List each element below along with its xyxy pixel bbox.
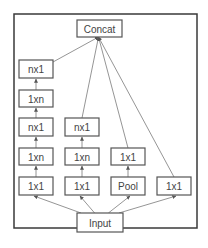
edges	[34, 37, 176, 213]
node-c4-1x1: 1x1	[157, 177, 191, 195]
edge-input-to-c1-1x1	[34, 196, 81, 213]
node-label: 1x1	[120, 152, 137, 163]
node-label: 1x1	[28, 181, 45, 192]
node-input: Input	[77, 213, 123, 232]
node-label: Pool	[118, 181, 138, 192]
node-c2-nx1: nx1	[65, 118, 99, 136]
node-label: 1x1	[166, 181, 183, 192]
node-c1-nx1-top: nx1	[19, 60, 53, 78]
node-label: nx1	[74, 122, 91, 133]
node-c1-1xn-top: 1xn	[19, 90, 53, 107]
node-c3-1x1: 1x1	[111, 148, 145, 165]
node-label: nx1	[28, 122, 45, 133]
edge-c2-nx1-to-concat	[82, 37, 99, 118]
node-label: 1x1	[74, 181, 91, 192]
node-concat: Concat	[77, 20, 122, 37]
node-c1-1xn-bot: 1xn	[19, 148, 53, 165]
edge-c3-1x1-to-concat	[99, 37, 129, 148]
node-c2-1xn: 1xn	[65, 148, 99, 165]
node-label: nx1	[28, 64, 45, 75]
edge-input-to-c4-1x1	[119, 196, 176, 213]
node-c1-1x1: 1x1	[19, 177, 53, 195]
node-c1-nx1-mid: nx1	[19, 118, 53, 136]
node-label: 1xn	[28, 152, 44, 163]
node-c2-1x1: 1x1	[65, 177, 99, 195]
node-label: 1xn	[74, 152, 90, 163]
inception-module-diagram: Concatnx11xnnx11xn1x1nx11xn1x11x1Pool1x1…	[0, 0, 208, 248]
node-c3-pool: Pool	[111, 177, 145, 195]
node-label: Concat	[84, 24, 116, 35]
node-label: 1xn	[28, 94, 44, 105]
edge-c1-nx1-top-to-concat	[53, 37, 99, 62]
edge-input-to-c2-1x1	[80, 196, 95, 213]
node-label: Input	[89, 218, 111, 229]
